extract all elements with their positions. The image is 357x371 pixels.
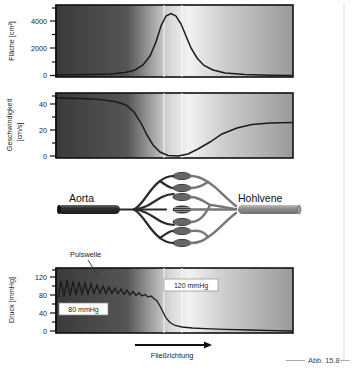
figure-caption: Abb. 15.8 bbox=[308, 356, 340, 365]
velocity-ytick-0: 0 bbox=[43, 152, 47, 161]
pressure-y-ticks bbox=[50, 270, 56, 331]
vena-cava-opening bbox=[297, 205, 301, 214]
arterial-branches bbox=[120, 176, 174, 243]
area-ytick-4000: 4000 bbox=[31, 17, 47, 26]
diastolic-value-label: 80 mmHg bbox=[68, 306, 98, 314]
pressure-y-axis-label: Druck [mmHg] bbox=[7, 277, 16, 323]
capillary-bed bbox=[173, 184, 191, 191]
flow-direction-arrow bbox=[135, 342, 212, 349]
panel-area: 0 2000 4000 Fläche [cm²] bbox=[7, 5, 293, 80]
aorta-label: Aorta bbox=[69, 192, 94, 204]
aorta-opening bbox=[57, 205, 61, 214]
pressure-ytick-40: 40 bbox=[39, 309, 47, 318]
vena-cava-vessel bbox=[238, 205, 300, 214]
area-ytick-2000: 2000 bbox=[31, 44, 47, 53]
area-y-axis-label: Fläche [cm²] bbox=[7, 21, 16, 61]
pressure-ytick-0: 0 bbox=[43, 327, 47, 336]
panel-vessel-diagram: Aorta Hohlvene bbox=[57, 172, 301, 246]
hohlvene-label: Hohlvene bbox=[238, 192, 283, 204]
systolic-annotation-box: 120 mmHg bbox=[164, 279, 218, 291]
velocity-y-axis-label-line2: [cm/s] bbox=[15, 122, 24, 141]
velocity-y-axis-label-line1: Geschwindigkeit bbox=[5, 99, 14, 151]
capillary-bed bbox=[173, 206, 191, 213]
velocity-plot-background bbox=[56, 93, 293, 158]
pressure-plot-background bbox=[56, 268, 293, 333]
pressure-ytick-120: 120 bbox=[35, 273, 47, 282]
figure-cardiovascular-hemodynamics: 0 2000 4000 Fläche [cm²] 0 20 40 Geschwi… bbox=[0, 0, 357, 371]
area-ytick-0: 0 bbox=[43, 71, 47, 80]
systolic-value-label: 120 mmHg bbox=[174, 282, 208, 290]
diastolic-annotation-box: 80 mmHg bbox=[59, 303, 108, 315]
flow-direction-label: Fließrichtung bbox=[151, 351, 194, 360]
capillary-bed bbox=[173, 218, 191, 225]
velocity-ytick-40: 40 bbox=[39, 100, 47, 109]
capillary-bed bbox=[173, 193, 191, 200]
velocity-ytick-20: 20 bbox=[39, 126, 47, 135]
figure-caption-group: Abb. 15.8 bbox=[286, 3, 350, 365]
capillary-bed bbox=[173, 227, 191, 234]
panel-pressure: 0 40 80 120 Druck [mmHg] Pulswelle 120 m… bbox=[7, 250, 293, 360]
capillary-bed bbox=[173, 172, 191, 179]
aorta-vessel bbox=[58, 205, 120, 214]
area-y-ticks bbox=[50, 8, 56, 76]
panel-velocity: 0 20 40 Geschwindigkeit [cm/s] bbox=[5, 93, 293, 161]
pressure-ytick-80: 80 bbox=[39, 291, 47, 300]
capillary-beds bbox=[173, 172, 191, 246]
venous-branches bbox=[191, 176, 236, 243]
velocity-y-ticks bbox=[50, 96, 56, 156]
pulswelle-label: Pulswelle bbox=[70, 250, 101, 259]
capillary-bed bbox=[173, 239, 191, 246]
